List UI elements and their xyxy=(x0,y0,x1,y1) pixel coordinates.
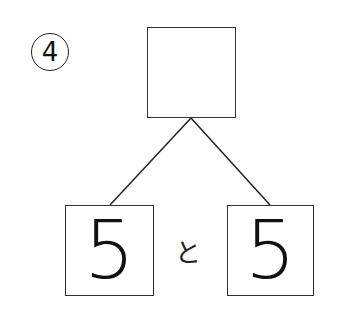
top-answer-box[interactable] xyxy=(147,27,236,118)
top-box-value xyxy=(148,28,235,117)
left-number-box: 5 xyxy=(65,205,154,296)
right-box-value: 5 xyxy=(228,206,313,295)
connector-text: と xyxy=(175,232,201,269)
left-branch-line xyxy=(110,118,191,205)
right-branch-line xyxy=(191,118,270,205)
left-box-value: 5 xyxy=(66,206,153,295)
right-number-box: 5 xyxy=(227,205,314,296)
